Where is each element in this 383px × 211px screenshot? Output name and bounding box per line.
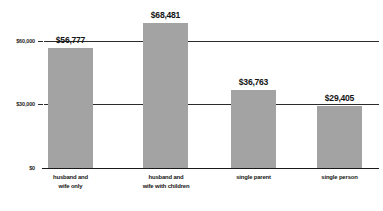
gridline-60000 [44,41,379,42]
gridline-30000 [44,104,379,105]
y-axis-label-0: $0 [29,166,35,171]
bar-value-single-parent: $36,763 [231,78,276,87]
bar-value-single-person: $29,405 [317,94,362,103]
x-axis-label-single-parent: single parent [216,173,291,182]
x-axis-label-husband-and-wife-only: husband and wife only [33,173,108,190]
bar-single-parent[interactable] [231,90,276,168]
y-tick-mark-30000 [38,104,43,105]
x-axis-label-line-2: wife only [33,182,108,191]
bar-husband-and-wife-only[interactable] [48,48,93,168]
y-axis-label-30000: $30,000 [16,102,35,107]
x-axis-label-line-1: husband and [33,173,108,182]
x-axis-label-single-person: single person [302,173,377,182]
x-axis-label-husband-and-wife-with-children: husband and wife with children [123,173,209,190]
bar-husband-and-wife-with-children[interactable] [143,23,188,168]
x-axis-label-line-2: wife with children [123,182,209,191]
bar-single-person[interactable] [317,106,362,168]
bar-value-husband-and-wife-with-children: $68,481 [143,11,188,20]
bar-value-husband-and-wife-only: $56,777 [48,36,93,45]
x-axis-label-line-1: single parent [216,173,291,182]
x-axis-label-line-1: husband and [123,173,209,182]
x-axis-label-line-1: single person [302,173,377,182]
y-axis-label-60000: $60,000 [16,39,35,44]
x-axis-baseline [42,168,379,169]
y-tick-mark-60000 [38,41,43,42]
bar-chart: $60,000 $30,000 $0 $56,777 $68,481 $36,7… [0,0,383,211]
